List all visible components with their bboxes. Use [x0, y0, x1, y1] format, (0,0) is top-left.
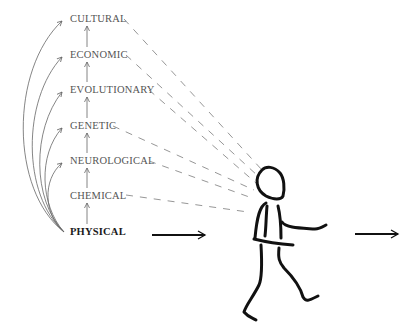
- person-arm: [282, 222, 326, 229]
- level-label-physical: PHYSICAL: [70, 226, 126, 237]
- level-label-evolutionary: EVOLUTIONARY: [70, 84, 155, 95]
- curve-arrow-economic: [32, 57, 64, 232]
- level-label-genetic: GENETIC: [70, 120, 116, 131]
- dash-line-evolutionary: [149, 90, 256, 183]
- dashed-influence-lines: [113, 19, 262, 212]
- causation-diagram: CULTURAL ECONOMIC EVOLUTIONARY GENETIC N…: [0, 0, 410, 334]
- curve-arrow-genetic: [45, 128, 64, 232]
- level-label-economic: ECONOMIC: [70, 49, 128, 60]
- level-label-neurological: NEUROLOGICAL: [70, 155, 155, 166]
- curve-arrow-cultural: [23, 21, 64, 232]
- curve-arrow-evolutionary: [40, 92, 64, 232]
- level-label-chemical: CHEMICAL: [70, 190, 126, 201]
- curved-arrows: [23, 21, 64, 232]
- person-head: [257, 167, 284, 199]
- person-body-center: [265, 206, 267, 236]
- level-label-cultural: CULTURAL: [70, 13, 127, 24]
- level-labels: CULTURAL ECONOMIC EVOLUTIONARY GENETIC N…: [70, 13, 155, 237]
- walking-person-figure: [244, 167, 326, 320]
- person-leg-back: [244, 245, 262, 320]
- dash-line-chemical: [126, 195, 248, 212]
- person-leg-front: [279, 248, 318, 300]
